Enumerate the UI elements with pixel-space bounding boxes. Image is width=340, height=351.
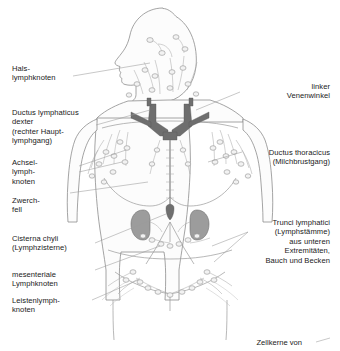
label-hals-lymphknoten: Hals- lymphknoten (12, 64, 56, 83)
label-ductus-lymphaticus-dexter: Ductus lymphaticus dexter (rechter Haupt… (12, 108, 79, 146)
label-zwerchfell: Zwerch- fell (12, 196, 40, 215)
label-achsel-lymphknoten: Achsel- lymph- knoten (12, 158, 38, 186)
footer-zellkerne-caption: Zellkerne von (256, 338, 302, 347)
label-ductus-thoracicus: Ductus thoracicus (Milchbrustgang) (210, 148, 330, 167)
label-trunci-lymphatici: Trunci lymphatici (Lymphstämme) aus unte… (212, 218, 330, 265)
label-linker-venenwinkel: linker Venenwinkel (210, 82, 330, 101)
label-leistenlymphknoten: Leistenlymph- knoten (12, 296, 60, 315)
label-mesenteriale-lymphknoten: mesenteriale Lymphknoten (12, 270, 58, 289)
label-cisterna-chyli: Cisterna chyli (Lymphzisterne) (12, 234, 67, 253)
